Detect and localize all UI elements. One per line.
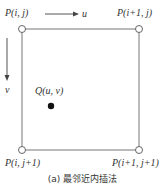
corner-node-bottom-left	[19, 147, 26, 154]
label-top-left: P(i, j)	[5, 8, 28, 18]
label-v-axis: v	[5, 85, 9, 95]
label-top-right: P(i+1, j)	[117, 8, 152, 18]
point-q-dot	[48, 103, 54, 109]
v-axis-arrowhead-icon	[5, 75, 10, 81]
corner-node-top-right	[136, 26, 143, 33]
nearest-neighbor-interpolation-diagram: P(i, j) P(i+1, j) u v Q(u, v) P(i, j+1) …	[0, 0, 165, 190]
corner-node-top-left	[19, 26, 26, 33]
label-u-axis: u	[82, 9, 87, 19]
u-axis-arrowhead-icon	[73, 12, 79, 17]
figure-caption: (a) 最邻近内插法	[0, 175, 165, 184]
label-bottom-left: P(i, j+1)	[5, 158, 40, 168]
label-bottom-right: P(i+1, j+1)	[112, 158, 159, 168]
corner-node-bottom-right	[136, 147, 143, 154]
label-point-q: Q(u, v)	[35, 86, 63, 96]
